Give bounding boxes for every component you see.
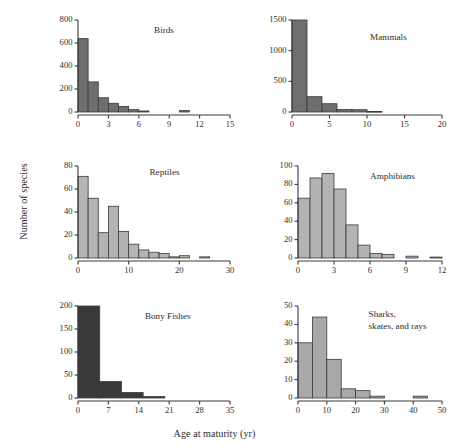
- svg-text:0: 0: [288, 252, 292, 262]
- svg-text:200: 200: [60, 83, 73, 93]
- svg-text:12: 12: [195, 119, 204, 129]
- svg-text:9: 9: [167, 119, 171, 129]
- svg-text:60: 60: [64, 183, 73, 193]
- svg-text:800: 800: [60, 14, 73, 24]
- svg-text:0: 0: [290, 119, 294, 129]
- svg-text:0: 0: [288, 392, 292, 402]
- svg-text:3: 3: [332, 265, 336, 275]
- svg-text:400: 400: [60, 60, 73, 70]
- svg-text:30: 30: [380, 405, 389, 415]
- svg-text:Reptiles: Reptiles: [149, 167, 180, 177]
- svg-text:50: 50: [284, 300, 293, 310]
- svg-text:0: 0: [76, 405, 80, 415]
- y-axis-label: Number of species: [18, 132, 29, 272]
- svg-text:0: 0: [282, 106, 286, 116]
- svg-text:150: 150: [60, 323, 73, 333]
- svg-text:15: 15: [226, 119, 235, 129]
- svg-text:0: 0: [76, 119, 80, 129]
- svg-text:5: 5: [327, 119, 331, 129]
- svg-text:Sharks,: Sharks,: [369, 309, 396, 319]
- svg-text:500: 500: [274, 75, 287, 85]
- svg-text:7: 7: [106, 405, 111, 415]
- svg-text:20: 20: [175, 265, 184, 275]
- panel-amphibians: 020406080100036912Amphibians: [264, 160, 450, 278]
- svg-text:3: 3: [106, 119, 110, 129]
- svg-text:10: 10: [363, 119, 372, 129]
- svg-text:35: 35: [226, 405, 235, 415]
- svg-text:1000: 1000: [269, 45, 286, 55]
- svg-text:12: 12: [438, 265, 447, 275]
- svg-text:6: 6: [137, 119, 142, 129]
- svg-text:20: 20: [438, 119, 447, 129]
- svg-text:10: 10: [323, 405, 332, 415]
- svg-text:0: 0: [68, 252, 72, 262]
- svg-text:21: 21: [165, 405, 174, 415]
- svg-text:80: 80: [284, 178, 293, 188]
- svg-text:10: 10: [124, 265, 133, 275]
- svg-text:skates, and rays: skates, and rays: [369, 321, 427, 331]
- panel-birds: 020040060080003691215Birds: [44, 14, 238, 132]
- svg-text:100: 100: [60, 346, 73, 356]
- svg-text:20: 20: [284, 234, 293, 244]
- svg-text:6: 6: [368, 265, 373, 275]
- svg-text:28: 28: [195, 405, 204, 415]
- svg-text:0: 0: [68, 106, 72, 116]
- svg-text:30: 30: [226, 265, 235, 275]
- svg-text:200: 200: [60, 300, 73, 310]
- panel-reptiles: 0204060800102030Reptiles: [44, 160, 238, 278]
- svg-text:40: 40: [64, 206, 73, 216]
- svg-text:Mammals: Mammals: [370, 32, 407, 42]
- svg-text:0: 0: [296, 265, 300, 275]
- svg-text:40: 40: [284, 318, 293, 328]
- svg-text:100: 100: [280, 160, 293, 170]
- svg-text:50: 50: [64, 369, 73, 379]
- panel-sharks-skates-rays: 0102030405001020304050Sharks,skates, and…: [264, 300, 450, 418]
- panel-mammals: 05001000150005101520Mammals: [258, 14, 450, 132]
- svg-text:0: 0: [68, 392, 72, 402]
- svg-text:600: 600: [60, 37, 73, 47]
- svg-text:20: 20: [284, 355, 293, 365]
- svg-text:1500: 1500: [269, 14, 286, 24]
- svg-text:60: 60: [284, 197, 293, 207]
- svg-text:20: 20: [64, 229, 73, 239]
- x-axis-label: Age at maturity (yr): [0, 428, 429, 439]
- svg-text:30: 30: [284, 337, 293, 347]
- svg-text:9: 9: [404, 265, 408, 275]
- panel-bony-fishes: 0501001502000714212835Bony Fishes: [44, 300, 238, 418]
- svg-text:50: 50: [438, 405, 447, 415]
- svg-text:40: 40: [409, 405, 418, 415]
- svg-text:Bony Fishes: Bony Fishes: [145, 311, 191, 321]
- svg-text:0: 0: [76, 265, 80, 275]
- svg-text:Amphibians: Amphibians: [370, 171, 415, 181]
- svg-text:Birds: Birds: [154, 25, 174, 35]
- svg-text:20: 20: [351, 405, 360, 415]
- svg-text:40: 40: [284, 215, 293, 225]
- svg-text:14: 14: [135, 405, 144, 415]
- svg-text:15: 15: [400, 119, 409, 129]
- svg-text:80: 80: [64, 160, 73, 170]
- svg-text:0: 0: [296, 405, 300, 415]
- svg-text:10: 10: [284, 374, 293, 384]
